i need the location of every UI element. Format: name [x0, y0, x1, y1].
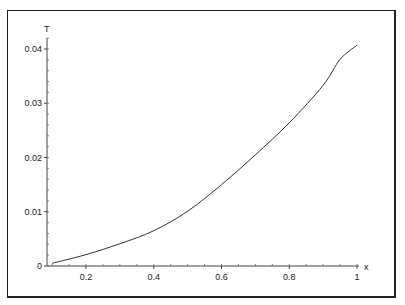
y-tick-label: 0.03	[24, 98, 42, 108]
x-tick-label: 1	[354, 272, 359, 282]
y-tick-label: 0	[37, 261, 42, 271]
y-tick-label: 0.01	[24, 207, 42, 217]
y-tick-label: 0.02	[24, 153, 42, 163]
x-tick-label: 0.8	[283, 272, 296, 282]
data-series-line	[52, 45, 357, 263]
x-tick-label: 0.2	[80, 272, 93, 282]
line-chart: 0.20.40.60.8100.010.020.030.04 T x	[0, 0, 405, 305]
axes: 0.20.40.60.8100.010.020.030.04	[24, 38, 359, 282]
y-axis-label: T	[44, 24, 50, 34]
y-tick-label: 0.04	[24, 44, 42, 54]
x-tick-label: 0.4	[147, 272, 160, 282]
x-tick-label: 0.6	[215, 272, 228, 282]
x-axis-label: x	[364, 262, 369, 272]
